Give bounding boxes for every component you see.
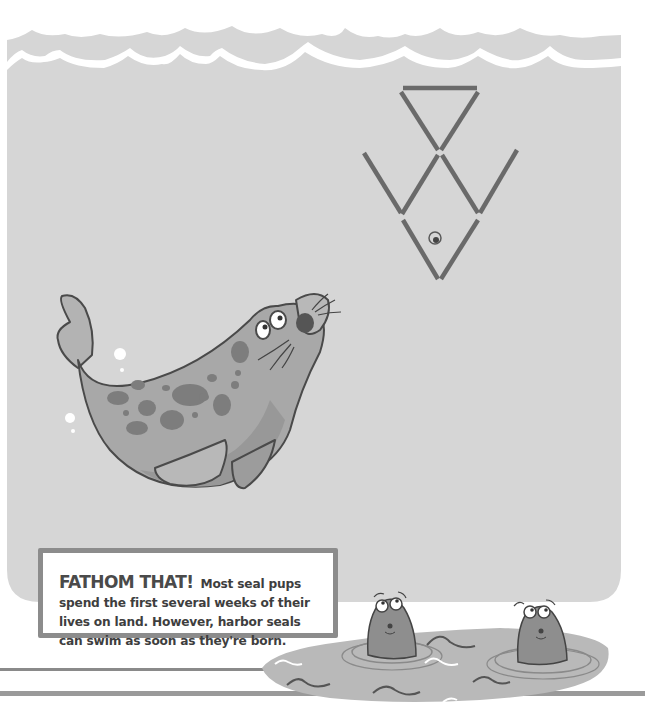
- fact-paragraph: FATHOM THAT! Most seal pups spend the fi…: [59, 573, 323, 651]
- fathom-that-fact-box: FATHOM THAT! Most seal pups spend the fi…: [38, 548, 338, 638]
- fact-title: FATHOM THAT!: [59, 572, 193, 592]
